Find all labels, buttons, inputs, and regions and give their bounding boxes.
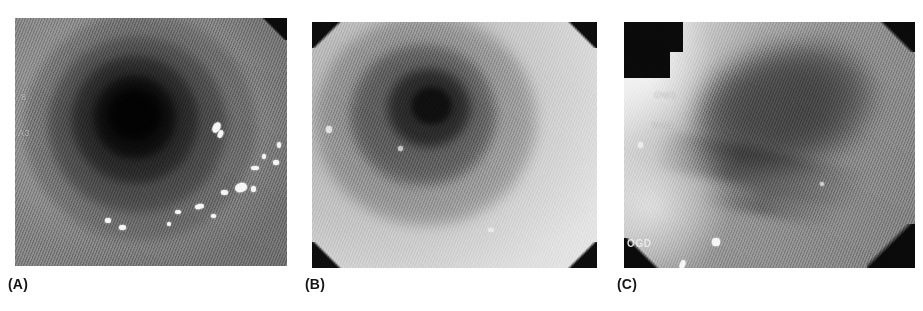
panel-c: OW1 WA3 OGD	[624, 22, 915, 268]
panel-b-corner-vignette-bottom-right	[567, 242, 597, 268]
panel-b-corner-vignette-top-right	[567, 22, 597, 48]
panel-b-highlight	[326, 126, 332, 133]
endoscopy-figure-row: 8 A3 (A) (B)	[0, 0, 923, 311]
panel-b-corner-vignette-top-left	[312, 22, 342, 48]
panel-c-corner-block-notch	[670, 22, 683, 52]
panel-b-lumen-center	[410, 86, 453, 125]
panel-b-corner-vignette-bottom-left	[312, 242, 342, 268]
panel-c-caption: (C)	[617, 276, 637, 292]
panel-a-highlight	[167, 222, 171, 226]
panel-a-highlight	[221, 190, 228, 195]
panel-c-corner-vignette-top-right	[881, 22, 915, 52]
panel-a-highlight	[273, 160, 279, 165]
panel-c-image: OW1 WA3 OGD	[624, 22, 915, 268]
panel-a-highlight	[175, 210, 181, 214]
panel-b-highlight	[488, 228, 494, 232]
panel-c-highlight	[638, 142, 643, 148]
panel-c-corner-vignette-bottom-left	[624, 238, 658, 268]
panel-a: 8 A3	[15, 18, 287, 266]
panel-b-highlight	[398, 146, 403, 151]
panel-c-highlight	[820, 182, 824, 186]
panel-c-corner-vignette-bottom-right	[867, 224, 915, 268]
panel-b-caption: (B)	[305, 276, 325, 292]
panel-a-highlight	[119, 225, 126, 230]
panel-a-corner-vignette-top-right	[261, 18, 287, 40]
panel-b-image	[312, 22, 597, 268]
panel-a-highlight	[251, 166, 259, 170]
panel-c-highlight	[712, 238, 720, 246]
panel-a-highlight	[105, 218, 111, 223]
panel-a-highlight	[211, 214, 216, 218]
panel-a-highlight	[251, 186, 256, 192]
panel-c-corner-block-top-left	[624, 22, 670, 78]
panel-a-highlight	[262, 154, 266, 159]
panel-a-caption: (A)	[8, 276, 28, 292]
panel-a-highlight	[277, 142, 281, 148]
panel-b	[312, 22, 597, 268]
panel-a-lumen-center	[107, 89, 161, 141]
panel-a-image: 8 A3	[15, 18, 287, 266]
